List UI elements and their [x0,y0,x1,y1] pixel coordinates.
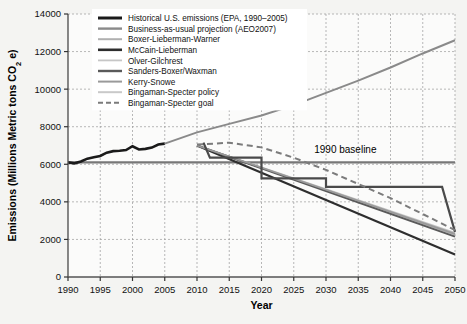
x-tick-label: 2005 [154,284,175,295]
legend: Historical U.S. emissions (EPA, 1990–200… [92,9,307,110]
legend-label-3: McCain-Lieberman [128,46,198,55]
x-tick-label: 2050 [444,284,465,295]
x-tick-label: 2040 [380,284,401,295]
x-tick-label: 2035 [348,284,369,295]
legend-label-5: Sanders-Boxer/Waxman [128,67,217,76]
annotation-0: 1990 baseline [314,144,377,155]
legend-label-4: Olver-Gilchrest [128,57,183,66]
x-tick-label: 1990 [57,284,78,295]
x-tick-label: 2045 [412,284,433,295]
y-tick-label: 2000 [40,234,61,245]
legend-label-1: Business-as-usual projection (AEO2007) [128,25,276,34]
x-tick-label: 2030 [315,284,336,295]
y-tick-label: 10000 [35,84,61,95]
x-tick-label: 2010 [186,284,207,295]
y-tick-label: 14000 [35,8,61,19]
legend-label-8: Bingaman-Specter goal [128,99,214,108]
y-tick-label: 6000 [40,159,61,170]
legend-label-0: Historical U.S. emissions (EPA, 1990–200… [128,14,288,23]
emissions-chart: 0200040006000800010000120001400019901995… [0,0,467,324]
legend-label-6: Kerry-Snowe [128,78,176,87]
x-tick-label: 2020 [251,284,272,295]
y-tick-label: 8000 [40,121,61,132]
chart-svg: 0200040006000800010000120001400019901995… [0,0,467,324]
y-axis-title-group: Emissions (Millions Metric tons CO2 e) [6,49,23,241]
x-axis-title: Year [250,299,272,311]
y-axis-title: Emissions (Millions Metric tons CO2 e) [6,49,23,241]
y-tick-label: 0 [56,271,61,282]
legend-label-2: Boxer-Lieberman-Warner [128,35,220,44]
x-tick-label: 2000 [122,284,143,295]
y-tick-label: 4000 [40,196,61,207]
x-tick-label: 2025 [283,284,304,295]
x-tick-label: 1995 [90,284,111,295]
legend-label-7: Bingaman-Specter policy [128,88,220,97]
y-tick-label: 12000 [35,46,61,57]
x-tick-label: 2015 [219,284,240,295]
